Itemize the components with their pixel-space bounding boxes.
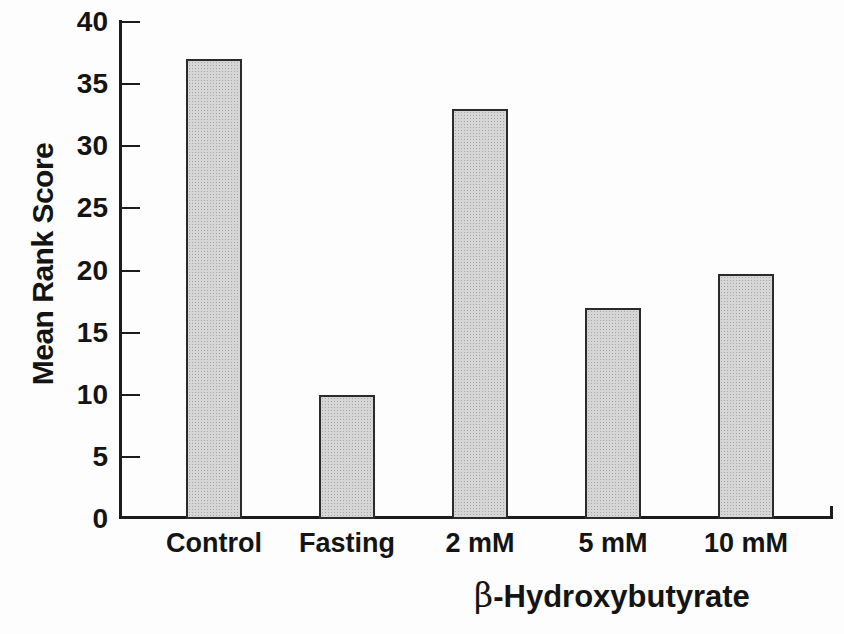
y-tick-20 xyxy=(122,270,140,272)
y-tick-30 xyxy=(122,145,140,147)
x-axis-end-tick xyxy=(830,506,833,519)
category-label-fasting: Fasting xyxy=(277,528,417,559)
bar-chart-figure: Mean Rank Score 0510152025303540ControlF… xyxy=(0,0,844,634)
bar-10-mm xyxy=(718,274,774,519)
y-tick-label-25: 25 xyxy=(48,194,108,222)
bar-fasting xyxy=(319,395,375,519)
y-tick-label-0: 0 xyxy=(48,505,108,533)
y-tick-15 xyxy=(122,332,140,334)
y-tick-label-40: 40 xyxy=(48,8,108,36)
y-tick-label-15: 15 xyxy=(48,319,108,347)
category-label-10-mm: 10 mM xyxy=(676,528,816,559)
y-tick-35 xyxy=(122,83,140,85)
y-tick-label-10: 10 xyxy=(48,381,108,409)
x-axis-title: β-Hydroxybutyrate xyxy=(462,576,762,615)
y-tick-25 xyxy=(122,207,140,209)
category-label-control: Control xyxy=(144,528,284,559)
beta-symbol: β xyxy=(474,576,493,615)
y-tick-10 xyxy=(122,394,140,396)
bar-2-mm xyxy=(452,109,508,519)
bar-5-mm xyxy=(585,308,641,519)
bar-control xyxy=(186,59,242,519)
y-tick-label-5: 5 xyxy=(48,443,108,471)
y-tick-40 xyxy=(122,21,140,23)
y-tick-5 xyxy=(122,456,140,458)
category-label-2-mm: 2 mM xyxy=(410,528,550,559)
y-tick-label-30: 30 xyxy=(48,132,108,160)
category-label-5-mm: 5 mM xyxy=(543,528,683,559)
y-tick-label-35: 35 xyxy=(48,70,108,98)
x-axis-title-text: -Hydroxybutyrate xyxy=(493,579,750,614)
y-tick-label-20: 20 xyxy=(48,257,108,285)
